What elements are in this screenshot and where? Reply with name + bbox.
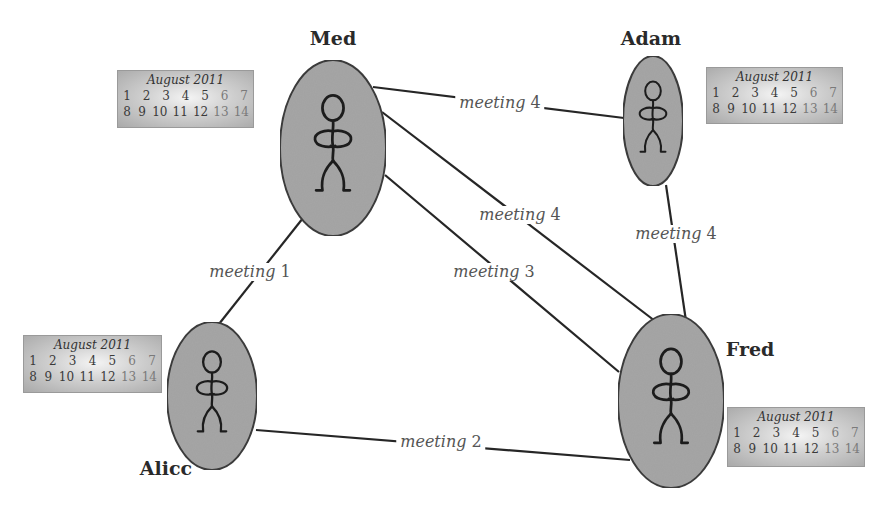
- calendar-week1: 1234567: [118, 88, 253, 104]
- calendar-day[interactable]: 4: [791, 425, 801, 441]
- cal-med: August 20111234567891011121314: [117, 70, 254, 128]
- calendar-day[interactable]: 8: [28, 369, 38, 385]
- calendar-day[interactable]: 12: [193, 104, 208, 120]
- calendar-day[interactable]: 14: [142, 369, 157, 385]
- cal-fred: August 20111234567891011121314: [727, 407, 865, 467]
- edge-label-word: meeting: [400, 432, 466, 451]
- calendar-day[interactable]: 5: [107, 353, 117, 369]
- calendar-day[interactable]: 5: [789, 85, 799, 101]
- calendar-day[interactable]: 11: [173, 104, 188, 120]
- edge-adam-fred: [666, 185, 686, 321]
- person-name-med: Med: [310, 27, 356, 49]
- calendar-day[interactable]: 3: [771, 425, 781, 441]
- calendar-day[interactable]: 4: [770, 85, 780, 101]
- calendar-day[interactable]: 7: [147, 353, 157, 369]
- calendar-day[interactable]: 8: [732, 441, 742, 457]
- calendar-day[interactable]: 2: [48, 353, 58, 369]
- calendar-day[interactable]: 3: [68, 353, 78, 369]
- person-node-adam[interactable]: [623, 56, 683, 186]
- edge-label-alice-fred: meeting 2: [396, 433, 485, 451]
- calendar-day[interactable]: 12: [782, 101, 797, 117]
- calendar-title: August 2011: [24, 338, 161, 353]
- calendar-day[interactable]: 14: [845, 441, 860, 457]
- edge-label-med-adam: meeting 4: [455, 94, 544, 112]
- calendar-week2: 891011121314: [728, 441, 864, 457]
- calendar-day[interactable]: 1: [122, 88, 132, 104]
- calendar-day[interactable]: 8: [122, 104, 132, 120]
- calendar-day[interactable]: 3: [161, 88, 171, 104]
- calendar-day[interactable]: 14: [823, 101, 838, 117]
- calendar-day[interactable]: 6: [830, 425, 840, 441]
- calendar-day[interactable]: 2: [752, 425, 762, 441]
- cal-adam: August 20111234567891011121314: [706, 67, 843, 124]
- calendar-title: August 2011: [118, 73, 253, 88]
- calendar-day[interactable]: 9: [43, 369, 53, 385]
- calendar-day[interactable]: 12: [804, 441, 819, 457]
- calendar-day[interactable]: 10: [152, 104, 167, 120]
- edge-label-word: meeting: [459, 93, 525, 112]
- calendar-day[interactable]: 10: [59, 369, 74, 385]
- calendar-week1: 1234567: [707, 85, 842, 101]
- calendar-day[interactable]: 11: [783, 441, 798, 457]
- calendar-day[interactable]: 6: [127, 353, 137, 369]
- calendar-day[interactable]: 7: [239, 88, 249, 104]
- calendar-day[interactable]: 11: [762, 101, 777, 117]
- calendar-day[interactable]: 6: [809, 85, 819, 101]
- calendar-week2: 891011121314: [118, 104, 253, 120]
- calendar-day[interactable]: 5: [200, 88, 210, 104]
- calendar-week2: 891011121314: [707, 101, 842, 117]
- edge-label-adam-fred: meeting 4: [631, 225, 720, 243]
- calendar-day[interactable]: 11: [80, 369, 95, 385]
- edge-label-word: meeting: [635, 224, 701, 243]
- calendar-day[interactable]: 7: [828, 85, 838, 101]
- calendar-day[interactable]: 1: [732, 425, 742, 441]
- calendar-title: August 2011: [707, 70, 842, 85]
- calendar-day[interactable]: 1: [711, 85, 721, 101]
- calendar-day[interactable]: 5: [811, 425, 821, 441]
- edge-label-number: 4: [551, 205, 561, 224]
- calendar-day[interactable]: 13: [121, 369, 136, 385]
- calendar-day[interactable]: 9: [726, 101, 736, 117]
- calendar-day[interactable]: 2: [731, 85, 741, 101]
- calendar-day[interactable]: 8: [711, 101, 721, 117]
- edge-label-number: 4: [531, 93, 541, 112]
- calendar-day[interactable]: 3: [750, 85, 760, 101]
- edge-label-med-fred-lower: meeting 3: [449, 263, 538, 281]
- calendar-day[interactable]: 10: [763, 441, 778, 457]
- meeting-diagram: meeting 4meeting 4meeting 3meeting 4meet…: [0, 0, 884, 505]
- cal-alice: August 20111234567891011121314: [23, 335, 162, 393]
- calendar-day[interactable]: 7: [850, 425, 860, 441]
- calendar-day[interactable]: 2: [142, 88, 152, 104]
- calendar-day[interactable]: 14: [234, 104, 249, 120]
- calendar-day[interactable]: 9: [747, 441, 757, 457]
- edge-label-number: 1: [281, 262, 291, 281]
- edge-label-number: 4: [707, 224, 717, 243]
- person-name-adam: Adam: [621, 27, 681, 49]
- calendar-day[interactable]: 13: [213, 104, 228, 120]
- calendar-day[interactable]: 1: [28, 353, 38, 369]
- person-name-alice: Alicc: [140, 457, 192, 479]
- person-node-med[interactable]: [280, 60, 386, 236]
- edge-label-number: 3: [525, 262, 535, 281]
- calendar-day[interactable]: 4: [87, 353, 97, 369]
- calendar-week2: 891011121314: [24, 369, 161, 385]
- calendar-day[interactable]: 12: [100, 369, 115, 385]
- edge-label-med-fred-upper: meeting 4: [475, 206, 564, 224]
- edge-label-word: meeting: [453, 262, 519, 281]
- edge-label-word: meeting: [479, 205, 545, 224]
- calendar-day[interactable]: 4: [181, 88, 191, 104]
- person-name-fred: Fred: [726, 338, 775, 360]
- calendar-day[interactable]: 10: [741, 101, 756, 117]
- edge-label-med-alice: meeting 1: [205, 263, 294, 281]
- calendar-week1: 1234567: [728, 425, 864, 441]
- calendar-day[interactable]: 13: [802, 101, 817, 117]
- person-node-alice[interactable]: [167, 322, 257, 470]
- calendar-day[interactable]: 9: [137, 104, 147, 120]
- calendar-day[interactable]: 13: [824, 441, 839, 457]
- calendar-day[interactable]: 6: [220, 88, 230, 104]
- edge-label-word: meeting: [209, 262, 275, 281]
- edge-label-number: 2: [472, 432, 482, 451]
- calendar-title: August 2011: [728, 410, 864, 425]
- person-node-fred[interactable]: [618, 314, 724, 488]
- calendar-week1: 1234567: [24, 353, 161, 369]
